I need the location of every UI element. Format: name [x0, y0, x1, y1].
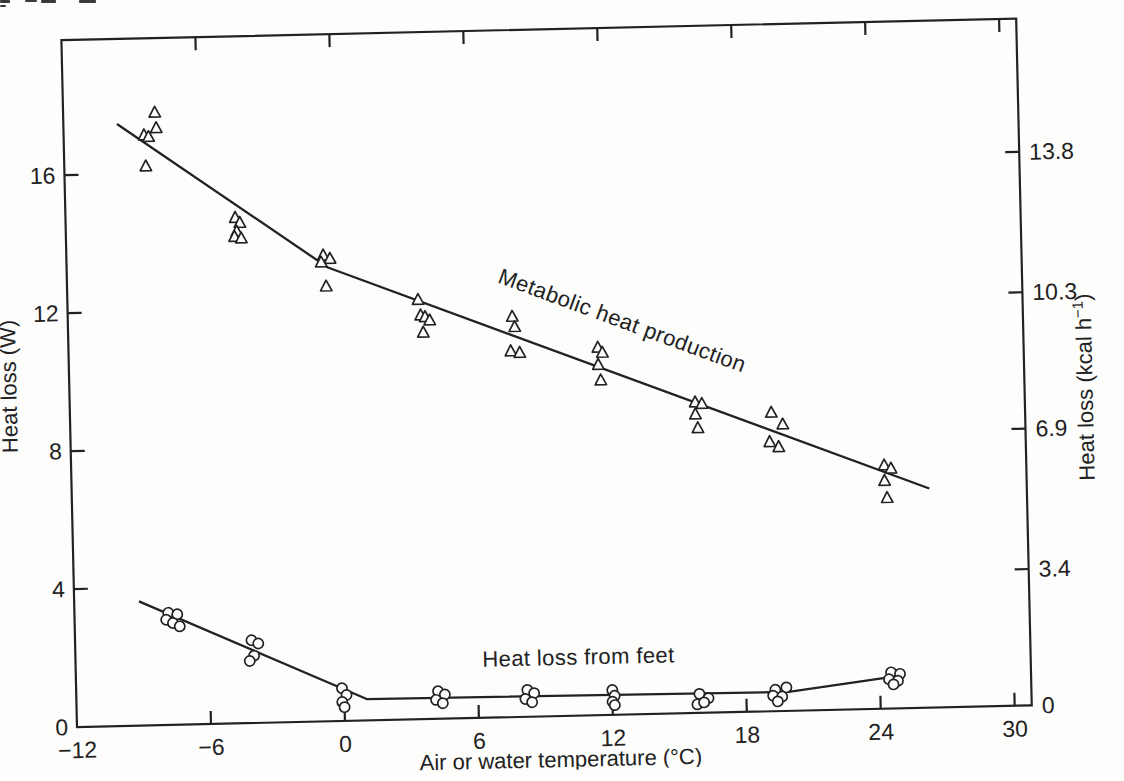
- y-tick-label-right: 6.9: [1035, 415, 1068, 442]
- circle-marker: [245, 656, 255, 666]
- circle-marker: [253, 638, 263, 648]
- series-label: Heat loss from feet: [482, 642, 675, 671]
- triangle-marker: [879, 474, 891, 485]
- y-tick-label-left: 0: [55, 714, 68, 740]
- plot-frame-rect: [61, 19, 1031, 727]
- y-tick-label-left: 16: [30, 162, 56, 189]
- triangle-marker: [514, 346, 526, 357]
- triangle-marker: [881, 492, 893, 503]
- circle-marker: [610, 700, 620, 710]
- triangle-marker: [417, 326, 429, 337]
- triangle-marker: [765, 406, 777, 417]
- circle-marker: [339, 702, 349, 712]
- y-tick-label-left: 12: [33, 300, 59, 327]
- triangle-marker: [150, 122, 162, 133]
- x-tick-label: 18: [734, 722, 760, 749]
- x-tick-label: −6: [198, 734, 225, 761]
- fitted-lines: [117, 106, 934, 707]
- scanned-figure: −12−60612182430048121603.46.910.313.8 Ai…: [0, 0, 1124, 781]
- circle-marker: [773, 696, 783, 706]
- x-tick-label: 30: [1002, 715, 1028, 742]
- y-tick-label-right: 0: [1041, 692, 1054, 718]
- x-axis-title: Air or water temperature (°C): [419, 744, 702, 775]
- y-axis-title-right: Heat loss (kcal h−1): [1068, 293, 1099, 481]
- circle-marker: [438, 698, 448, 708]
- heat-loss-vs-temperature-chart: −12−60612182430048121603.46.910.313.8 Ai…: [0, 0, 1124, 781]
- x-tick-label: 24: [868, 718, 894, 745]
- triangle-marker: [149, 106, 161, 117]
- triangle-marker: [777, 418, 789, 429]
- triangle-marker: [506, 310, 518, 321]
- triangle-marker: [764, 436, 776, 447]
- triangle-marker: [595, 374, 607, 385]
- y-tick-label-left: 4: [52, 576, 66, 602]
- triangle-marker: [592, 358, 604, 369]
- circle-marker: [699, 697, 709, 707]
- circle-marker: [888, 679, 898, 689]
- triangle-marker: [509, 321, 521, 332]
- y-tick-label-right: 3.4: [1038, 555, 1071, 582]
- triangle-marker: [320, 280, 332, 291]
- data-point-markers: [138, 90, 906, 722]
- plot-frame: [61, 19, 1031, 727]
- triangle-marker: [690, 408, 702, 419]
- series-label: Metabolic heat production: [495, 264, 749, 378]
- triangle-marker: [692, 422, 704, 433]
- x-tick-label: 0: [339, 731, 352, 757]
- circle-marker: [527, 697, 537, 707]
- axis-ticks: [61, 19, 1031, 727]
- y-tick-label-left: 8: [49, 438, 62, 464]
- x-tick-label: −12: [58, 737, 98, 764]
- y-axis-title-left: Heat loss (W): [0, 320, 23, 454]
- triangle-marker: [140, 160, 152, 171]
- metabolic-fit-line: [117, 106, 929, 507]
- y-tick-label-right: 13.8: [1029, 138, 1074, 165]
- circle-marker: [175, 621, 185, 631]
